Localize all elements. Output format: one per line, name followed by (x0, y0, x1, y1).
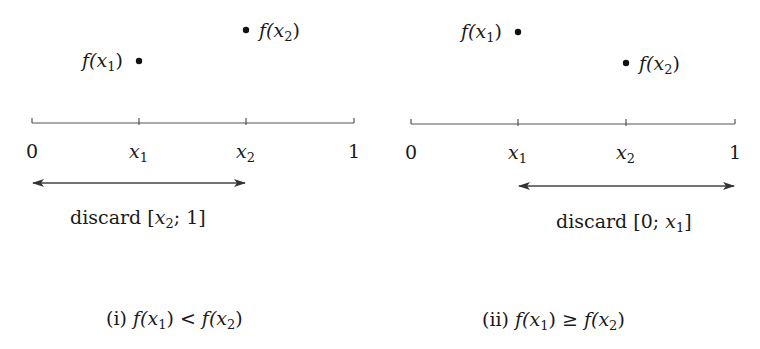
paren-close: ) (672, 52, 679, 74)
panel-i-discard-label: discard [x2; 1] (70, 208, 206, 230)
paren-close: ) (115, 49, 122, 71)
caption-index: (i) (106, 307, 127, 329)
paren-close: ) (235, 307, 242, 329)
var-x: x (598, 308, 609, 330)
panel-i-tick-0: 0 (26, 142, 38, 161)
bracket-close: ] (198, 206, 205, 228)
bracket-close: ] (684, 210, 691, 232)
caption-index: (ii) (482, 308, 509, 330)
greater-equal: ≥ (562, 308, 578, 330)
f-open: f( (515, 308, 529, 330)
subscript: 2 (165, 216, 173, 231)
f-open: f( (82, 49, 96, 71)
var-x: x (665, 210, 676, 232)
panel-i-caption: (i) f(x1) < f(x2) (106, 309, 243, 331)
panel-ii-tick-x1: x1 (508, 143, 527, 165)
panel-ii-point-fx1 (515, 29, 521, 35)
panel-ii-label-fx2: f(x2) (639, 54, 680, 76)
f-open: f( (584, 308, 598, 330)
less-than: < (180, 307, 196, 329)
bracket-open: [ (147, 206, 154, 228)
panel-ii-tick-0: 0 (405, 143, 417, 162)
panel-ii-axis (411, 119, 735, 126)
var-x: x (155, 206, 166, 228)
paren-close: ) (292, 19, 299, 41)
panel-i-tick-x1: x1 (129, 142, 148, 164)
subscript: 1 (140, 150, 148, 165)
subscript: 1 (676, 220, 684, 235)
panel-i-tick-x2: x2 (236, 142, 255, 164)
f-open: f( (639, 52, 653, 74)
var-x: x (96, 49, 107, 71)
var-x: x (236, 140, 247, 162)
var-x: x (147, 307, 158, 329)
discard-word: discard (70, 206, 141, 228)
var-x: x (616, 141, 627, 163)
panel-ii-tick-1: 1 (729, 143, 741, 162)
panel-i-point-fx1 (136, 58, 142, 64)
var-x: x (129, 140, 140, 162)
paren-close: ) (166, 307, 173, 329)
panel-i-label-fx1: f(x1) (82, 51, 123, 73)
var-x: x (475, 20, 486, 42)
one: 1 (186, 206, 198, 228)
paren-close: ) (548, 308, 555, 330)
subscript: 2 (247, 150, 255, 165)
var-x: x (653, 52, 664, 74)
var-x: x (529, 308, 540, 330)
var-x: x (508, 141, 519, 163)
subscript: 2 (627, 151, 635, 166)
f-open: f( (202, 307, 216, 329)
panel-ii-discard-label: discard [0; x1] (556, 212, 692, 234)
paren-close: ) (494, 20, 501, 42)
var-x: x (216, 307, 227, 329)
paren-close: ) (617, 308, 624, 330)
zero: 0 (641, 210, 653, 232)
panel-i-axis (32, 118, 354, 125)
f-open: f( (259, 19, 273, 41)
panel-ii-label-fx1: f(x1) (461, 22, 502, 44)
panel-ii-point-fx2 (623, 60, 629, 66)
f-open: f( (461, 20, 475, 42)
discard-word: discard (556, 210, 627, 232)
panel-ii-caption: (ii) f(x1) ≥ f(x2) (482, 310, 625, 332)
var-x: x (273, 19, 284, 41)
subscript: 1 (519, 151, 527, 166)
panel-i-label-fx2: f(x2) (259, 21, 300, 43)
f-open: f( (133, 307, 147, 329)
panel-ii-tick-x2: x2 (616, 143, 635, 165)
panel-i-point-fx2 (243, 27, 249, 33)
panel-i-tick-1: 1 (348, 142, 360, 161)
bracket-open: [ (633, 210, 640, 232)
